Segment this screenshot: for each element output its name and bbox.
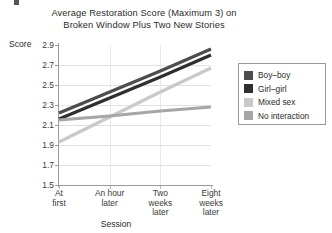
legend-item[interactable]: Boy–boy (244, 69, 290, 81)
x-axis-tick-label-line: later (133, 208, 187, 218)
legend-swatch-icon (244, 98, 253, 107)
legend-item[interactable]: Mixed sex (244, 96, 295, 108)
x-axis-tick-label: Eightweekslater (184, 189, 238, 218)
y-axis-tick-label: 2.7 (24, 60, 54, 70)
legend-swatch-icon (244, 111, 253, 120)
legend-item[interactable]: Girl–girl (244, 83, 287, 95)
chart-title: Average Restoration Score (Maximum 3) on… (36, 8, 252, 31)
chart-title-line-2: Broken Window Plus Two New Stories (36, 20, 252, 32)
legend-swatch-icon (244, 71, 253, 80)
series-lines (59, 45, 211, 185)
legend-swatch-icon (244, 84, 253, 93)
x-axis-line (55, 185, 213, 186)
x-axis-tick-label-line: later (184, 208, 238, 218)
y-axis-tick-label: 2.3 (24, 100, 54, 110)
y-axis-tick-label: 1.9 (24, 140, 54, 150)
y-axis-tick-label: 2.1 (24, 120, 54, 130)
x-axis-tick-label-line: later (83, 199, 137, 209)
x-axis-tick-label: Atfirst (32, 189, 86, 208)
x-axis-tick-label: An hourlater (83, 189, 137, 208)
legend-item-label: Girl–girl (258, 84, 287, 94)
x-axis-label: Session (0, 219, 232, 229)
plot-area (59, 45, 211, 185)
legend-item-label: Boy–boy (258, 70, 290, 80)
y-axis-tick-label: 2.9 (24, 40, 54, 50)
x-axis-tick-label: Twoweekslater (133, 189, 187, 218)
chart-figure: Average Restoration Score (Maximum 3) on… (0, 0, 332, 233)
page-corner-mark (14, 0, 19, 5)
x-axis-tick-label-line: first (32, 199, 86, 209)
y-axis-tick-label: 2.5 (24, 80, 54, 90)
legend-item[interactable]: No interaction (244, 110, 309, 122)
legend-item-label: Mixed sex (258, 97, 295, 107)
y-axis-tick-label: 1.7 (24, 160, 54, 170)
chart-title-line-1: Average Restoration Score (Maximum 3) on (36, 8, 252, 20)
legend-item-label: No interaction (258, 111, 309, 121)
chart-legend: Boy–boyGirl–girlMixed sexNo interaction (238, 63, 326, 125)
